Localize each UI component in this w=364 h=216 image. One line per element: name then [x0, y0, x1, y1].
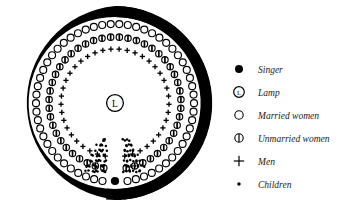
lamp-icon-letter: L [237, 89, 241, 96]
child-marker [138, 160, 141, 163]
married-woman-marker [156, 165, 163, 172]
married-woman-marker [183, 133, 190, 140]
man-marker [69, 132, 74, 137]
married-woman-marker [33, 108, 40, 115]
child-marker [93, 164, 96, 167]
legend-item-lamp: L Lamp [234, 87, 280, 98]
married-woman-marker [169, 45, 176, 52]
plus-icon [234, 156, 244, 166]
married-woman-marker [91, 176, 98, 183]
unmarried-woman-marker [149, 45, 155, 51]
married-woman-marker [37, 74, 44, 81]
man-marker [63, 78, 68, 83]
man-marker [108, 47, 113, 52]
man-marker [161, 78, 166, 83]
married-woman-marker [37, 125, 44, 132]
unmarried-woman-marker [62, 57, 68, 63]
child-marker [139, 169, 142, 172]
married-woman-marker [190, 91, 197, 98]
married-woman-marker [179, 59, 186, 66]
child-marker [143, 166, 146, 169]
child-marker [130, 144, 133, 147]
married-woman-marker [107, 21, 114, 28]
married-woman-marker [33, 100, 40, 107]
married-woman-marker [190, 108, 197, 115]
unmarried-woman-marker [76, 155, 82, 161]
child-marker [129, 170, 132, 173]
lamp-label: L [112, 99, 118, 109]
married-woman-marker [90, 23, 97, 30]
married-woman-marker [132, 176, 139, 183]
legend-item-singer: Singer [235, 65, 283, 75]
married-woman-marker [54, 154, 61, 161]
man-marker [67, 71, 72, 76]
open-circle-icon [235, 111, 243, 119]
man-marker [64, 125, 69, 130]
unmarried-woman-marker [63, 144, 69, 150]
child-marker [99, 144, 102, 147]
unmarried-woman-marker [107, 34, 113, 40]
married-woman-marker [156, 34, 163, 41]
legend-item-children: Children [237, 180, 291, 190]
unmarried-woman-marker [49, 79, 55, 85]
child-marker [130, 166, 133, 169]
unmarried-woman-marker [46, 105, 52, 111]
legend-label-singer: Singer [258, 65, 283, 75]
child-marker [129, 149, 132, 152]
married-woman-marker [44, 140, 51, 147]
married-woman-marker [186, 74, 193, 81]
man-marker [116, 47, 121, 52]
man-marker [151, 138, 156, 143]
unmarried-woman-marker [176, 114, 182, 120]
unmarried-woman-marker [57, 64, 63, 70]
child-marker [123, 159, 126, 162]
married-woman-marker [162, 160, 169, 167]
unmarried-woman-marker [166, 137, 172, 143]
man-marker [164, 85, 169, 90]
man-marker [152, 64, 157, 69]
man-marker [160, 125, 165, 130]
married-woman-marker [133, 23, 140, 30]
married-woman-marker [67, 165, 74, 172]
married-woman-marker [189, 117, 196, 124]
married-woman-marker [124, 22, 131, 29]
unmarried-woman-marker [75, 45, 81, 51]
unmarried-woman-marker [90, 37, 96, 43]
child-marker [137, 165, 140, 168]
man-marker [87, 148, 92, 153]
man-marker [100, 48, 105, 53]
child-marker [128, 155, 131, 158]
child-marker [129, 159, 132, 162]
married-woman-marker [33, 91, 40, 98]
child-marker [135, 171, 138, 174]
child-marker [126, 138, 129, 141]
man-marker [166, 102, 171, 107]
unmarried-woman-marker [147, 155, 153, 161]
child-marker [132, 150, 135, 153]
child-marker [124, 139, 127, 142]
small-dot-icon [237, 182, 240, 185]
married-woman-marker [60, 39, 67, 46]
unmarried-woman-marker [177, 88, 183, 94]
married-woman-marker [74, 30, 81, 37]
man-marker [166, 110, 171, 115]
unmarried-woman-marker [116, 34, 122, 40]
man-marker [164, 118, 169, 123]
unmarried-woman-marker [69, 150, 75, 156]
married-woman-marker [148, 169, 155, 176]
child-marker [133, 154, 136, 157]
unmarried-woman-marker [175, 79, 181, 85]
legend-item-unmarried-women [235, 134, 243, 142]
child-marker [95, 144, 98, 147]
child-marker [101, 169, 104, 172]
child-marker [140, 164, 143, 167]
child-marker [106, 150, 109, 153]
child-marker [89, 160, 92, 163]
child-marker [132, 160, 135, 163]
unmarried-woman-marker [68, 50, 74, 56]
married-woman-marker [82, 26, 89, 33]
child-marker [126, 160, 129, 163]
seating-plan-figure: L Singer L Lamp Married women [0, 0, 364, 216]
married-woman-marker [186, 125, 193, 132]
man-marker [80, 144, 85, 149]
